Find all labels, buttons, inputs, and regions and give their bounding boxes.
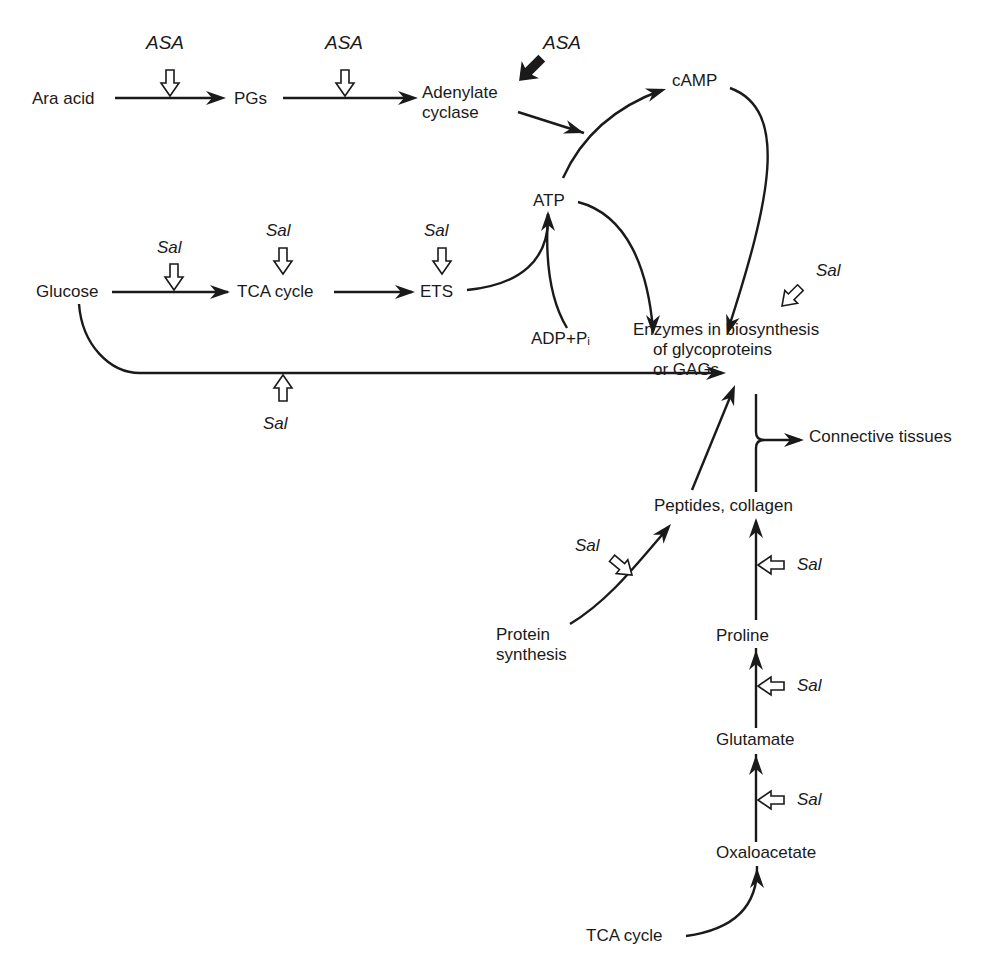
node-camp: cAMP — [672, 71, 717, 90]
open-inhibition-arrow-icon — [274, 375, 292, 401]
edge-adp-to-atp — [547, 214, 567, 328]
node-ets: ETS — [420, 282, 453, 301]
drug-labels: ASAASAASASalSalSalSalSalSalSalSalSal — [145, 32, 842, 809]
open-inhibition-arrow-icon — [758, 677, 784, 695]
node-glucose: Glucose — [36, 282, 98, 301]
drug-label-sal-2: Sal — [266, 221, 292, 240]
drug-label-sal-6: Sal — [575, 536, 601, 555]
drug-label-sal-9: Sal — [797, 790, 823, 809]
drug-label-sal-4: Sal — [263, 414, 289, 433]
node-glutamate: Glutamate — [716, 730, 794, 749]
node-ara-acid: Ara acid — [32, 89, 94, 108]
pathway-arrowheads — [206, 82, 804, 888]
open-inhibition-arrow-icon — [336, 70, 354, 96]
node-enzymes: Enzymes in biosynthesisof glycoproteinso… — [633, 320, 819, 379]
arrowhead-icon — [645, 82, 668, 101]
drug-label-asa-2: ASA — [324, 32, 363, 53]
drug-label-sal-8: Sal — [797, 676, 823, 695]
drug-label-sal-3: Sal — [424, 221, 450, 240]
solid-inhibition-arrow-icon — [513, 52, 548, 87]
edge-bracket-upper — [756, 394, 764, 440]
edge-camp-to-enzymes — [728, 88, 768, 330]
node-atp: ATP — [533, 191, 565, 210]
edge-ets-to-atp — [467, 214, 548, 290]
node-oxaloacetate: Oxaloacetate — [716, 843, 816, 862]
node-tca-cycle-1: TCA cycle — [237, 282, 314, 301]
node-adenylate-cyclase: Adenylatecyclase — [422, 83, 498, 122]
arrowhead-icon — [750, 868, 764, 888]
open-inhibition-arrow-icon — [776, 281, 807, 312]
drug-label-sal-1: Sal — [157, 238, 183, 257]
open-inhibition-arrow-icon — [274, 248, 292, 274]
open-inhibition-arrow-icon — [161, 70, 179, 96]
node-tca-cycle-2: TCA cycle — [586, 926, 663, 945]
edge-atp-to-camp — [563, 90, 662, 178]
open-inhibition-arrow-icon — [433, 248, 451, 274]
node-pgs: PGs — [234, 89, 267, 108]
arrowhead-icon — [721, 382, 741, 406]
pathway-nodes: Ara acidPGsAdenylatecyclasecAMPATPGlucos… — [32, 71, 952, 945]
edge-tca-to-oxaloacetate — [686, 866, 757, 936]
edge-glucose-to-enzymes — [79, 304, 722, 373]
open-inhibition-arrow-icon — [758, 556, 784, 574]
node-proline: Proline — [716, 626, 769, 645]
arrowhead-icon — [563, 120, 586, 139]
inhibition-arrows — [161, 52, 807, 809]
open-inhibition-arrow-icon — [165, 264, 183, 290]
node-connective-tissues: Connective tissues — [809, 427, 952, 446]
drug-label-sal-7: Sal — [797, 555, 823, 574]
node-peptides-collagen: Peptides, collagen — [654, 496, 793, 515]
edge-bracket-lower — [756, 440, 764, 492]
node-adp-pi: ADP+Pᵢ — [531, 329, 590, 348]
open-inhibition-arrow-icon — [758, 791, 784, 809]
edge-atp-to-enzymes — [578, 202, 653, 330]
drug-label-asa-1: ASA — [145, 32, 184, 53]
edge-peptides-to-enzymes — [692, 390, 733, 490]
drug-label-asa-3: ASA — [542, 32, 581, 53]
node-protein-synthesis: Proteinsynthesis — [496, 625, 567, 664]
metabolic-pathway-diagram: Ara acidPGsAdenylatecyclasecAMPATPGlucos… — [0, 0, 1007, 962]
drug-label-sal-5: Sal — [816, 261, 842, 280]
